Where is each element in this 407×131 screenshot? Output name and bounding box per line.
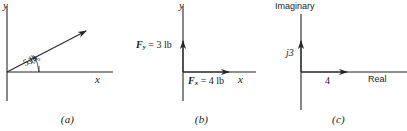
panel-b-fx-symbol: F — [188, 75, 195, 86]
panel-a-angle-label: 37° — [28, 57, 41, 66]
panel-c-real-value-label: 4 — [325, 76, 330, 86]
panel-c-axes-drawing — [270, 0, 407, 131]
panel-a-caption: (a) — [0, 113, 135, 125]
panel-c-imaginary-value-label: j3 — [286, 48, 294, 58]
panel-b-components: y x Fy = 3 lb Fx = 4 lb (b) — [134, 0, 269, 131]
panel-b-y-axis-label: y — [179, 0, 184, 11]
panel-b-fy-label: Fy = 3 lb — [136, 40, 172, 51]
panel-b-axes-drawing — [134, 0, 270, 131]
panel-b-fy-symbol: F — [136, 39, 143, 50]
panel-c-caption: (c) — [270, 113, 407, 125]
panel-c-real-axis-label: Real — [368, 75, 387, 84]
panel-b-caption: (b) — [134, 113, 269, 125]
panel-a-axes-drawing — [0, 0, 135, 131]
force-vector-figure: y x 5 lb 37° (a) y x Fy = 3 lb Fx = 4 lb — [0, 0, 407, 131]
panel-b-x-axis-label: x — [238, 74, 243, 85]
panel-a-x-axis-label: x — [95, 74, 100, 85]
panel-c-imaginary-axis-label: Imaginary — [275, 2, 315, 11]
panel-b-fx-label: Fx = 4 lb — [188, 76, 224, 87]
panel-a-force-vector-arrow — [7, 31, 86, 72]
panel-c-complex-plane: Imaginary Real j3 4 (c) — [270, 0, 407, 131]
panel-b-fy-value: = 3 lb — [146, 39, 172, 50]
panel-b-fx-value: = 4 lb — [198, 75, 224, 86]
figure-bottom-edge — [0, 130, 407, 131]
panel-a-y-axis-label: y — [3, 0, 8, 11]
panel-a-force-vector: y x 5 lb 37° (a) — [0, 0, 135, 131]
